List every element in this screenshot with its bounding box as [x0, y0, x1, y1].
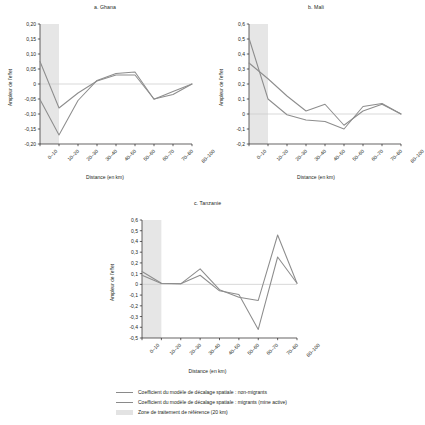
y-axis-tick-label: 0,4 [100, 238, 138, 244]
plot-area-mali: -0,2-0,100,10,20,30,40,50,60–1010–2020–3… [211, 10, 421, 192]
legend-shade-icon [116, 410, 133, 415]
data-series-line [40, 62, 192, 109]
plot-area-ghana: -0,20-0,15-0,10-0,0500,050,100,150,200–1… [0, 10, 210, 192]
y-axis-tick-label: -0,20 [0, 141, 36, 147]
y-axis-tick-label: 0,1 [211, 96, 245, 102]
y-axis-tick-label: 0,2 [211, 81, 245, 87]
y-axis-title: Ampleur de l'effet [219, 69, 224, 106]
data-series-line [40, 72, 192, 135]
x-axis-title: Distance (en km) [0, 174, 210, 180]
legend-line-icon [116, 402, 133, 403]
legend-line-icon [116, 392, 133, 393]
legend-item: Coefficient du modèle de décalage spatia… [116, 389, 287, 395]
y-axis-tick-label: 0,5 [100, 228, 138, 234]
y-axis-tick-label: 0,3 [211, 66, 245, 72]
y-axis-tick-label: -0,10 [0, 111, 36, 117]
y-axis-tick-label: 0,1 [100, 271, 138, 277]
chart-panel-tanzanie: c. Tanzanie -0,5-0,4-0,3-0,2-0,100,10,20… [100, 200, 315, 385]
y-axis-tick-label: -0,5 [100, 335, 138, 341]
legend-label: Coefficient du modèle de décalage spatia… [138, 399, 287, 405]
legend-label: Zone de traitement de référence (20 km) [138, 409, 228, 415]
y-axis-tick-label: 0,5 [211, 36, 245, 42]
y-axis-tick-label: 0,3 [100, 249, 138, 255]
legend-item: Coefficient du modèle de décalage spatia… [116, 399, 287, 405]
y-axis-tick-label: 0,6 [100, 217, 138, 223]
y-axis-tick-label: 0 [0, 81, 36, 87]
chart-panel-mali: b. Mali -0,2-0,100,10,20,30,40,50,60–101… [211, 4, 421, 199]
y-axis-title: Ampleur de l'effet [8, 69, 13, 106]
data-series-line [249, 38, 401, 129]
y-axis-tick-label: -0,2 [211, 141, 245, 147]
y-axis-tick-label: -0,1 [211, 126, 245, 132]
y-axis-tick-label: 0,2 [100, 260, 138, 266]
plot-area-tanzanie: -0,5-0,4-0,3-0,2-0,100,10,20,30,40,50,60… [100, 206, 315, 384]
chart-panel-ghana: a. Ghana -0,20-0,15-0,10-0,0500,050,100,… [0, 4, 210, 199]
y-axis-tick-label: 0,6 [211, 21, 245, 27]
y-axis-tick-label: -0,2 [100, 303, 138, 309]
x-axis-title: Distance (en km) [100, 368, 315, 374]
shaded-treatment-zone [249, 24, 268, 144]
y-axis-tick-label: 0,20 [0, 21, 36, 27]
y-axis-tick-label: 0,15 [0, 36, 36, 42]
y-axis-tick-label: -0,05 [0, 96, 36, 102]
legend-item: Zone de traitement de référence (20 km) [116, 409, 287, 415]
y-axis-tick-label: 0 [100, 281, 138, 287]
y-axis-tick-label: -0,3 [100, 314, 138, 320]
y-axis-tick-label: -0,1 [100, 292, 138, 298]
y-axis-tick-label: 0,05 [0, 66, 36, 72]
y-axis-tick-label: -0,15 [0, 126, 36, 132]
legend-label: Coefficient du modèle de décalage spatia… [138, 389, 267, 395]
y-axis-tick-label: 0,4 [211, 51, 245, 57]
y-axis-title: Ampleur de l'effet [110, 264, 115, 301]
x-axis-title: Distance (en km) [211, 174, 421, 180]
y-axis-tick-label: -0,4 [100, 324, 138, 330]
y-axis-tick-label: 0 [211, 111, 245, 117]
data-series-line [142, 257, 297, 329]
data-series-line [249, 63, 401, 125]
figure-legend: Coefficient du modèle de décalage spatia… [116, 389, 287, 420]
y-axis-tick-label: 0,10 [0, 51, 36, 57]
